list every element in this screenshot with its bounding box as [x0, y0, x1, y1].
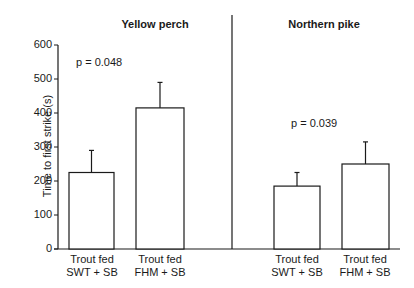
x-label-line: SWT + SB	[57, 266, 127, 279]
x-label-line: Trout fed	[262, 253, 332, 266]
x-label-line: Trout fed	[57, 253, 127, 266]
p-value-yellow-perch: p = 0.048	[76, 56, 122, 68]
y-tick-label: 600	[22, 38, 52, 50]
x-label-line: SWT + SB	[262, 266, 332, 279]
x-label-line: FHM + SB	[330, 266, 400, 279]
x-category-label: Trout fed FHM + SB	[330, 253, 400, 279]
bar-chart: Time to first strike (s) Yellow perch No…	[0, 0, 414, 288]
bar	[136, 108, 184, 249]
x-category-label: Trout fed SWT + SB	[57, 253, 127, 279]
p-value-northern-pike: p = 0.039	[291, 117, 337, 129]
y-tick-label: 300	[22, 140, 52, 152]
y-tick-label: 200	[22, 174, 52, 186]
x-category-label: Trout fed FHM + SB	[125, 253, 195, 279]
y-tick-label: 100	[22, 208, 52, 220]
x-label-line: FHM + SB	[125, 266, 195, 279]
plot-area	[0, 0, 414, 288]
y-tick-label: 400	[22, 106, 52, 118]
bar	[342, 164, 389, 249]
y-tick-label: 0	[22, 242, 52, 254]
x-label-line: Trout fed	[125, 253, 195, 266]
x-label-line: Trout fed	[330, 253, 400, 266]
bar	[274, 186, 320, 249]
panel-title-yellow-perch: Yellow perch	[90, 18, 220, 30]
panel-title-northern-pike: Northern pike	[274, 18, 374, 30]
bar	[69, 173, 114, 250]
x-category-label: Trout fed SWT + SB	[262, 253, 332, 279]
y-tick-label: 500	[22, 72, 52, 84]
